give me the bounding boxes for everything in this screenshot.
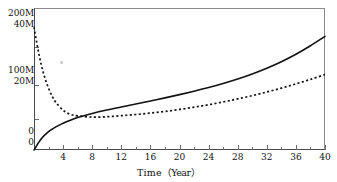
series-dotted-curve — [34, 27, 325, 117]
dotted-curve-path — [34, 27, 325, 117]
x-tick-minor-22 — [194, 147, 195, 150]
x-tick-label-28: 28 — [227, 152, 249, 162]
x-axis-labels: 481216202428323640 — [0, 152, 337, 166]
x-tick-minor-10 — [107, 147, 108, 150]
y-tick-label-zero-upper: 0 — [2, 126, 34, 137]
x-tick-minor-38 — [310, 147, 311, 150]
x-tick-major-12 — [121, 145, 122, 150]
y-tick-label-20m: 20M — [2, 76, 34, 87]
x-tick-major-4 — [63, 145, 64, 150]
y-tick-label-group-zero: 0 0 — [2, 126, 34, 148]
x-tick-major-32 — [267, 145, 268, 150]
x-tick-major-28 — [238, 145, 239, 150]
x-axis-title-text: Time — [137, 167, 162, 178]
y-tick-label-group-mid: 100M 20M — [2, 65, 34, 87]
x-tick-major-24 — [209, 145, 210, 150]
x-axis-title-unit: （Year） — [162, 167, 200, 178]
x-tick-major-36 — [296, 145, 297, 150]
x-tick-major-40 — [325, 145, 326, 150]
y-tick-label-200m: 200M — [2, 8, 34, 19]
x-tick-minor-6 — [78, 147, 79, 150]
x-tick-label-20: 20 — [169, 152, 191, 162]
x-tick-minor-34 — [281, 147, 282, 150]
x-tick-label-8: 8 — [81, 152, 103, 162]
x-tick-label-4: 4 — [52, 152, 74, 162]
series-solid-curve — [34, 36, 325, 150]
y-tick-label-100m: 100M — [2, 65, 34, 76]
x-tick-minor-18 — [165, 147, 166, 150]
x-tick-minor-2 — [49, 147, 50, 150]
x-tick-label-32: 32 — [256, 152, 278, 162]
x-tick-label-16: 16 — [139, 152, 161, 162]
x-tick-major-16 — [150, 145, 151, 150]
x-tick-label-12: 12 — [110, 152, 132, 162]
x-tick-label-40: 40 — [314, 152, 336, 162]
x-tick-label-24: 24 — [198, 152, 220, 162]
curve-layer — [34, 8, 325, 150]
scan-artifact-speck — [60, 61, 63, 64]
solid-curve-path — [34, 36, 325, 150]
x-tick-major-8 — [92, 145, 93, 150]
y-tick-label-group-top: 200M 40M — [2, 8, 34, 30]
x-tick-major-20 — [180, 145, 181, 150]
x-tick-minor-14 — [136, 147, 137, 150]
x-tick-minor-26 — [223, 147, 224, 150]
y-tick-label-zero-lower: 0 — [2, 137, 34, 148]
y-tick-label-40m: 40M — [2, 19, 34, 30]
x-axis-title: Time（Year） — [0, 165, 337, 179]
chart-screenshot: 200M 40M 100M 20M 0 0 481216202428323640 — [0, 0, 337, 182]
x-tick-label-36: 36 — [285, 152, 307, 162]
x-tick-minor-30 — [252, 147, 253, 150]
